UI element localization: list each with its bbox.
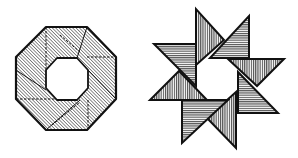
pinwheel-star-figure [150, 9, 284, 148]
octagon-ring-figure [16, 27, 116, 130]
octagon-inner-hole [46, 58, 88, 100]
star-point-3 [228, 59, 284, 86]
figure-canvas [0, 0, 298, 158]
star-point-7 [150, 71, 207, 100]
